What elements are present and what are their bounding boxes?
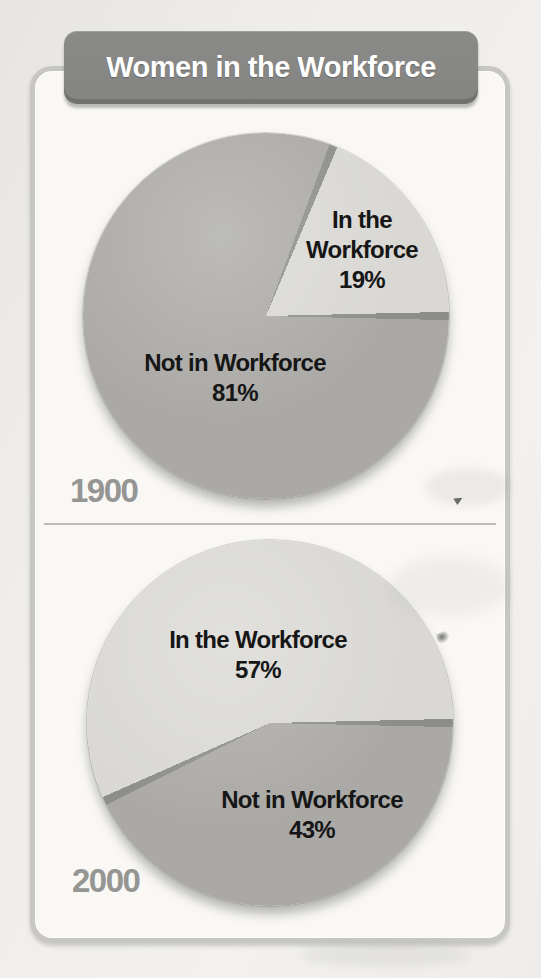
slice-label-text: Not in Workforce (221, 786, 403, 813)
chart-title-tab: Women in the Workforce (64, 31, 478, 104)
pie-chart-2000: In the Workforce 57% Not in Workforce 43… (87, 540, 453, 906)
chart-title: Women in the Workforce (106, 51, 436, 84)
scan-bleedthrough-smudge (300, 944, 470, 966)
slice-percent: 19% (287, 265, 437, 295)
slice-percent: 81% (105, 378, 365, 408)
slice-label-2000-in-workforce: In the Workforce 57% (128, 625, 388, 685)
scanned-textbook-chart-page: { "title": "Women in the Workforce", "pa… (0, 0, 541, 978)
slice-label-text: Not in Workforce (144, 349, 326, 376)
slice-label-text: In the Workforce (306, 206, 418, 263)
slice-label-1900-in-workforce: In the Workforce 19% (287, 205, 437, 295)
year-label-2000: 2000 (72, 862, 139, 900)
year-label-1900: 1900 (70, 472, 137, 510)
slice-label-2000-not-in-workforce: Not in Workforce 43% (182, 785, 442, 845)
section-divider (44, 523, 496, 525)
slice-label-text: In the Workforce (169, 626, 347, 653)
slice-label-1900-not-in-workforce: Not in Workforce 81% (105, 348, 365, 408)
slice-percent: 57% (128, 655, 388, 685)
pie-chart-1900: In the Workforce 19% Not in Workforce 81… (83, 133, 449, 499)
slice-percent: 43% (182, 815, 442, 845)
